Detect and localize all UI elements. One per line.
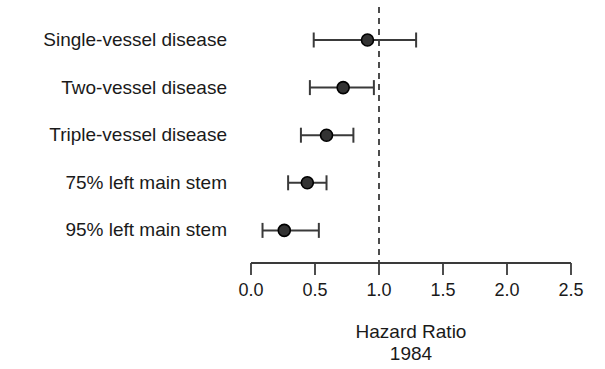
x-tick-label: 0.5 — [302, 280, 327, 300]
x-axis-subtitle-year: 1984 — [251, 343, 571, 365]
forest-plot-figure: Single-vessel disease Two-vessel disease… — [0, 0, 605, 369]
x-tick-label: 2.0 — [494, 280, 519, 300]
point-marker — [337, 82, 349, 94]
x-tick-label: 2.5 — [558, 280, 583, 300]
point-marker — [301, 177, 313, 189]
point-marker — [361, 34, 373, 46]
x-tick-label: 1.0 — [366, 280, 391, 300]
x-tick-label: 0.0 — [238, 280, 263, 300]
point-marker — [278, 224, 290, 236]
point-marker — [321, 129, 333, 141]
forest-plot-canvas: 0.00.51.01.52.02.5 — [0, 0, 605, 369]
x-tick-label: 1.5 — [430, 280, 455, 300]
x-axis-title: Hazard Ratio — [251, 321, 571, 343]
